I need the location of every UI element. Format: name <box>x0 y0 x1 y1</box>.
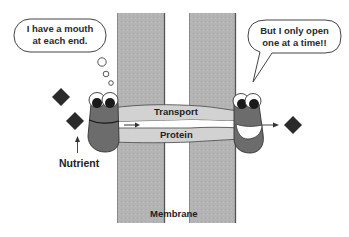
nutrient-diamond-icon <box>66 112 84 130</box>
diagram-canvas: I have a mouth at each end. But I only o… <box>0 0 349 237</box>
exit-arrow-icon <box>262 123 279 128</box>
eye-icon <box>245 94 261 110</box>
nutrient-diamond-icon <box>52 88 70 106</box>
membrane-label: Membrane <box>150 208 198 219</box>
right-bubble-line1: But I only open <box>248 25 341 37</box>
left-bubble-line2: at each end. <box>14 35 106 47</box>
nutrient-diamond-icon <box>284 116 302 134</box>
left-bubble-line1: I have a mouth <box>14 23 106 35</box>
protein-bottom-label: Protein <box>160 129 193 140</box>
eye-icon <box>102 93 118 109</box>
nutrient-arrow-icon <box>75 136 80 153</box>
left-mouth-character <box>88 93 119 153</box>
right-bubble-text: But I only open one at a time!! <box>248 25 341 49</box>
left-bubble-text: I have a mouth at each end. <box>14 23 106 47</box>
right-mouth-character <box>233 94 279 154</box>
protein-top-label: Transport <box>154 106 198 117</box>
nutrient-label: Nutrient <box>59 157 99 169</box>
right-bubble-line2: one at a time!! <box>248 37 341 49</box>
